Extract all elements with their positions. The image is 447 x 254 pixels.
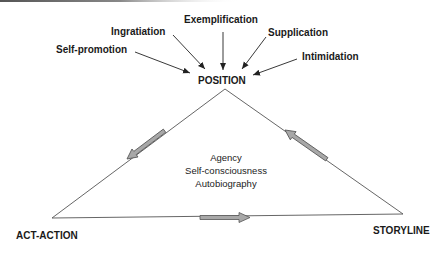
center-line-self-consciousness: Self-consciousness	[185, 165, 267, 176]
flow-arrow-right-icon	[200, 213, 250, 223]
input-label-intimidation: Intimidation	[302, 51, 359, 62]
edge-left	[52, 89, 225, 218]
arrow-self-promotion-icon	[135, 52, 190, 73]
right-vertex-label: STORYLINE	[373, 225, 430, 236]
flow-arrow-down-left-icon	[124, 127, 168, 163]
input-arrows	[135, 32, 297, 75]
triangle-diagram: Self-promotion Ingratiation Exemplificat…	[0, 0, 447, 254]
input-label-ingratiation: Ingratiation	[111, 26, 165, 37]
arrow-ingratiation-icon	[173, 35, 205, 69]
arrow-supplication-icon	[242, 37, 266, 69]
input-label-self-promotion: Self-promotion	[56, 44, 127, 55]
center-line-autobiography: Autobiography	[195, 178, 257, 189]
input-label-supplication: Supplication	[268, 27, 328, 38]
arrow-intimidation-icon	[253, 59, 297, 75]
center-line-agency: Agency	[210, 152, 242, 163]
flow-arrow-up-left-icon	[282, 126, 330, 163]
left-vertex-label: ACT-ACTION	[16, 230, 78, 241]
top-rule	[0, 0, 240, 2]
apex-label: POSITION	[198, 75, 246, 86]
input-label-exemplification: Exemplification	[184, 14, 258, 25]
